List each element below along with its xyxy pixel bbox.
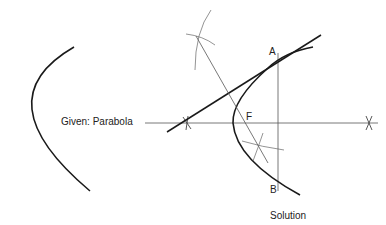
point-a-label: A: [269, 46, 276, 57]
construction-arc-top-long: [195, 10, 211, 70]
given-label: Given: Parabola: [61, 116, 133, 127]
diagram-canvas: [0, 0, 386, 225]
point-b-label: B: [270, 184, 277, 195]
construction-arc-bottom-short: [253, 133, 263, 161]
parabola-construction-diagram: Given: Parabola A F B Solution: [0, 0, 386, 225]
point-f-label: F: [246, 111, 252, 122]
solution-label: Solution: [270, 210, 306, 221]
tangent-line: [167, 35, 321, 132]
solution-parabola-curve: [233, 47, 313, 195]
perpendicular-line: [196, 36, 268, 163]
